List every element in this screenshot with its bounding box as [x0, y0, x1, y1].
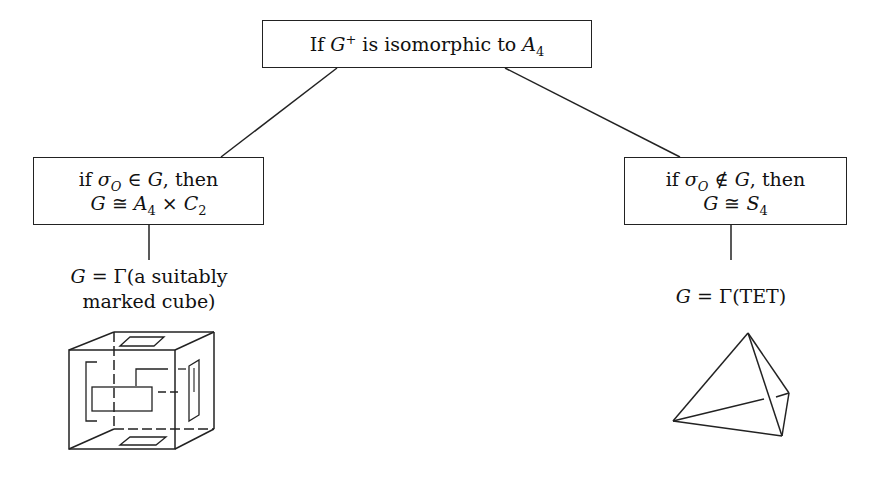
left-suffix: , then	[163, 168, 218, 190]
left-l2-group: G	[90, 192, 105, 214]
left-sigma: σ	[98, 168, 111, 190]
right-branch-line1: if σO ∉ G, then	[666, 167, 806, 191]
connector-lines	[0, 0, 873, 479]
left-branch-line2: G ≅ A4 × C2	[90, 191, 206, 215]
right-prefix: if	[666, 168, 685, 190]
left-l2-iso: ≅	[106, 192, 134, 214]
left-caption: G = Γ(a suitably marked cube)	[20, 264, 278, 314]
left-branch-line1: if σO ∈ G, then	[79, 167, 219, 191]
left-caption-G: G	[70, 265, 85, 287]
right-relation: ∉	[709, 168, 735, 190]
right-group: G	[735, 168, 750, 190]
root-group: G	[330, 33, 345, 55]
left-relation: ∈	[122, 168, 148, 190]
right-suffix: , then	[750, 168, 805, 190]
right-l2-S-sub: 4	[760, 203, 768, 218]
left-caption-line2: marked cube)	[20, 289, 278, 314]
root-group-sup: +	[345, 32, 356, 47]
tetrahedron-figure	[673, 333, 789, 436]
marked-cube-figure	[69, 332, 214, 449]
edge-root-left	[221, 68, 337, 157]
right-branch-node: if σO ∉ G, then G ≅ S4	[624, 157, 847, 225]
right-caption: G = Γ(TET)	[620, 284, 842, 309]
right-caption-G: G	[676, 285, 691, 307]
left-caption-rest: = Γ(a suitably	[86, 265, 228, 287]
root-target-sub: 4	[536, 44, 544, 59]
root-prefix: If	[310, 33, 331, 55]
left-l2-C-sub: 2	[198, 203, 206, 218]
right-l2-group: G	[703, 192, 718, 214]
left-group: G	[148, 168, 163, 190]
left-caption-line1: G = Γ(a suitably	[20, 264, 278, 289]
left-l2-A-sub: 4	[147, 203, 155, 218]
right-l2-iso: ≅	[718, 192, 746, 214]
left-l2-A: A	[134, 192, 148, 214]
root-label: If G+ is isomorphic to A4	[310, 32, 545, 56]
right-sigma: σ	[685, 168, 698, 190]
root-target: A	[522, 33, 536, 55]
left-l2-C: C	[184, 192, 199, 214]
right-caption-rest: = Γ(TET)	[691, 285, 786, 307]
root-middle: is isomorphic to	[356, 33, 522, 55]
root-node: If G+ is isomorphic to A4	[262, 20, 592, 68]
left-branch-node: if σO ∈ G, then G ≅ A4 × C2	[33, 157, 264, 225]
left-l2-times: ×	[156, 192, 184, 214]
right-l2-S: S	[746, 192, 759, 214]
left-prefix: if	[79, 168, 98, 190]
edge-root-right	[505, 68, 680, 157]
right-branch-line2: G ≅ S4	[703, 191, 768, 215]
